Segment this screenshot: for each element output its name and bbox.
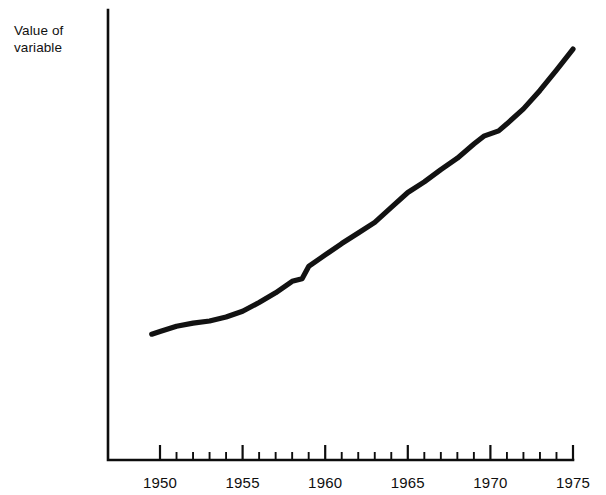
axes-group [108, 10, 573, 460]
x-tick-label-1950: 1950 [143, 474, 177, 491]
x-tick-label-1975: 1975 [556, 474, 590, 491]
line-chart-plot: 195019551960196519701975 [0, 0, 606, 495]
axis-lines [108, 10, 573, 460]
x-tick-label-1960: 1960 [308, 474, 342, 491]
data-line-series [152, 49, 573, 334]
x-tick-label-1970: 1970 [473, 474, 507, 491]
data-series-group [152, 49, 573, 334]
y-axis-label: Value of variable [14, 22, 104, 56]
x-tick-label-1955: 1955 [226, 474, 260, 491]
x-axis-tick-labels: 195019551960196519701975 [143, 474, 590, 491]
chart-figure: Value of variable 1950195519601965197019… [0, 0, 606, 495]
x-axis-major-ticks [160, 445, 573, 460]
x-tick-label-1965: 1965 [391, 474, 425, 491]
